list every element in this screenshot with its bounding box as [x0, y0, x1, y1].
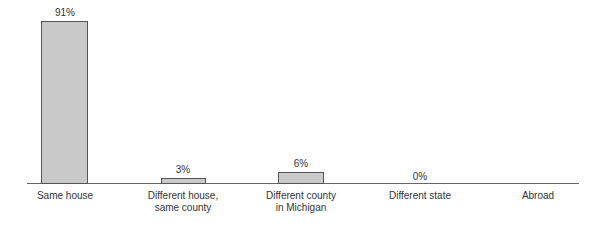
- value-label-different-state: 0%: [380, 171, 460, 182]
- bar-different-county-michigan: [278, 172, 324, 184]
- bar-different-house-same-county: [161, 178, 206, 184]
- category-label-different-county-michigan: Different county in Michigan: [246, 190, 356, 214]
- value-label-same-house: 91%: [25, 7, 105, 18]
- category-label-different-state: Different state: [365, 190, 475, 202]
- category-label-abroad: Abroad: [483, 190, 593, 202]
- value-label-different-county-michigan: 6%: [261, 158, 341, 169]
- value-label-different-house-same-county: 3%: [143, 164, 223, 175]
- bar-same-house: [41, 21, 88, 184]
- category-label-same-house: Same house: [10, 190, 120, 202]
- category-label-different-house-same-county: Different house, same county: [128, 190, 238, 214]
